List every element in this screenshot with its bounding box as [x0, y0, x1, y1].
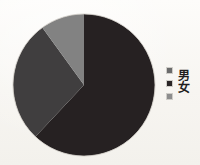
legend-swatch-icon[interactable]	[166, 67, 173, 74]
legend-label-column: 男 女	[178, 70, 198, 94]
legend-swatch-icon[interactable]	[166, 93, 173, 100]
pie-slices-group	[13, 14, 155, 156]
pie-chart-plot-area	[0, 0, 160, 165]
legend-swatch-icon[interactable]	[166, 80, 173, 87]
legend-item-label-female: 女	[178, 82, 190, 94]
legend-marker-column	[165, 64, 177, 106]
chart-legend: 男 女	[162, 62, 200, 108]
chart-page: 男 女	[0, 0, 200, 165]
pie-chart-svg	[12, 13, 156, 157]
pie-chart	[12, 13, 156, 157]
